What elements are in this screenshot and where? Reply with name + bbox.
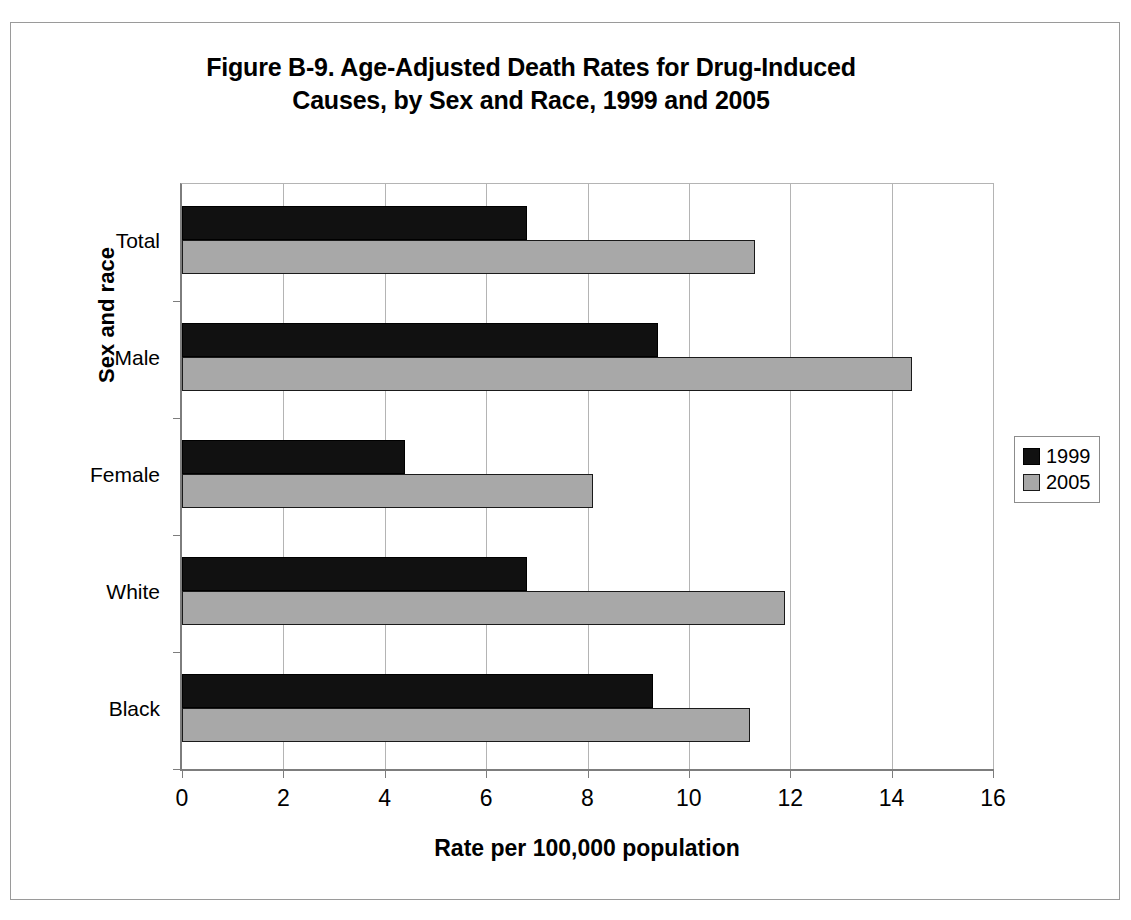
category-band: Black — [182, 652, 993, 769]
bar-total-2005[interactable] — [182, 240, 755, 274]
y-axis-tick — [173, 535, 182, 536]
x-axis-tick — [385, 769, 386, 778]
y-axis-tick — [173, 301, 182, 302]
x-axis-tick — [689, 769, 690, 778]
x-axis-tick — [486, 769, 487, 778]
legend-item-1999[interactable]: 1999 — [1023, 443, 1091, 469]
chart-title-line-1: Figure B-9. Age-Adjusted Death Rates for… — [91, 51, 971, 84]
figure-frame: Figure B-9. Age-Adjusted Death Rates for… — [10, 22, 1120, 900]
bar-female-2005[interactable] — [182, 474, 593, 508]
x-axis-tick — [790, 769, 791, 778]
y-axis-category-label-female: Female — [10, 463, 160, 487]
x-axis-tick-label: 16 — [958, 785, 1028, 812]
x-axis-title: Rate per 100,000 population — [180, 835, 994, 862]
x-axis-tick-label: 8 — [553, 785, 623, 812]
x-axis-tick — [283, 769, 284, 778]
y-axis-category-label-male: Male — [10, 346, 160, 370]
x-axis-tick-label: 2 — [248, 785, 318, 812]
plot-area: 0246810121416TotalMaleFemaleWhiteBlack — [180, 183, 994, 771]
y-axis-category-label-total: Total — [10, 229, 160, 253]
x-axis-tick — [892, 769, 893, 778]
y-axis-category-label-white: White — [10, 580, 160, 604]
bar-male-2005[interactable] — [182, 357, 912, 391]
bar-black-2005[interactable] — [182, 708, 750, 742]
chart-title-line-2: Causes, by Sex and Race, 1999 and 2005 — [91, 84, 971, 117]
y-axis-category-label-black: Black — [10, 697, 160, 721]
legend-swatch-1999-icon — [1023, 448, 1040, 465]
x-axis-tick — [993, 769, 994, 778]
bar-white-2005[interactable] — [182, 591, 785, 625]
bar-black-1999[interactable] — [182, 674, 653, 708]
page-title: Figure B-9. Age-Adjusted Death Rates for… — [91, 51, 971, 117]
y-axis-tick — [173, 652, 182, 653]
bar-total-1999[interactable] — [182, 206, 527, 240]
legend-item-2005[interactable]: 2005 — [1023, 469, 1091, 495]
x-axis-tick — [588, 769, 589, 778]
legend-swatch-2005-icon — [1023, 474, 1040, 491]
category-band: Male — [182, 301, 993, 418]
x-axis-tick-label: 12 — [755, 785, 825, 812]
category-band: Female — [182, 418, 993, 535]
x-axis-tick-label: 10 — [654, 785, 724, 812]
category-band: White — [182, 535, 993, 652]
x-axis-tick-label: 0 — [147, 785, 217, 812]
bar-male-1999[interactable] — [182, 323, 658, 357]
x-axis-tick — [182, 769, 183, 778]
x-axis-tick-label: 6 — [451, 785, 521, 812]
legend-label-2005: 2005 — [1046, 472, 1091, 492]
category-band: Total — [182, 184, 993, 301]
bar-white-1999[interactable] — [182, 557, 527, 591]
bar-female-1999[interactable] — [182, 440, 405, 474]
legend: 1999 2005 — [1014, 436, 1100, 503]
x-axis-tick-label: 14 — [857, 785, 927, 812]
x-axis-tick-label: 4 — [350, 785, 420, 812]
legend-label-1999: 1999 — [1046, 446, 1091, 466]
y-axis-tick — [173, 418, 182, 419]
y-axis-tick — [173, 769, 182, 770]
